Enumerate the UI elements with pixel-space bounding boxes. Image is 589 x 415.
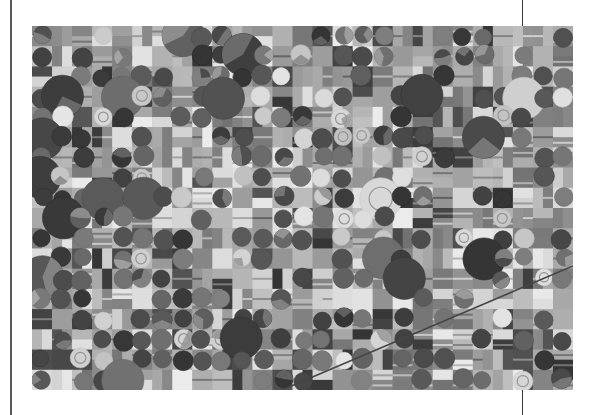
satellite-farmland-image <box>32 26 573 390</box>
bottom-crop-mark <box>522 390 523 415</box>
crop-circle-mosaic <box>32 26 573 390</box>
left-margin-rule <box>10 0 12 415</box>
top-crop-mark <box>522 0 523 26</box>
